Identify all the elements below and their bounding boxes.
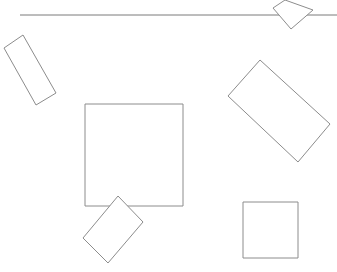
diagram-canvas <box>0 0 337 272</box>
right-tilted-rect <box>228 60 330 162</box>
left-tilted-rect <box>4 35 56 105</box>
bottom-right-square <box>243 202 298 258</box>
center-square <box>85 104 183 206</box>
top-right-diamond <box>273 0 313 29</box>
